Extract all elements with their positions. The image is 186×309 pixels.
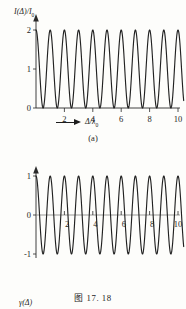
y-tick-label-b-1: 1 <box>27 171 31 181</box>
y-axis-arrow-icon-b <box>33 166 39 174</box>
x-axis-label-group-a: Δ/λ0 <box>56 117 98 128</box>
figure-caption: 图 17. 18 <box>0 291 186 304</box>
y-axis-label-a-text: I(Δ)/I <box>14 7 32 16</box>
intensity-curve <box>36 30 184 108</box>
figure-17-18: I(Δ)/I0 0 1 2 2 4 6 8 10 <box>0 0 186 309</box>
x-tick-label-a-10: 10 <box>174 114 183 124</box>
x-tick-label-a-6: 6 <box>119 114 123 124</box>
x-axis-label-a: Δ/λ0 <box>85 117 98 128</box>
panel-caption-a: (a) <box>0 133 186 143</box>
y-tick-label-b-neg1: -1 <box>24 249 31 259</box>
chart-panel-b: γ(Δ) 1 0 -1 2 4 6 8 10 <box>0 148 186 288</box>
chart-svg-b: 1 0 -1 2 4 6 8 10 <box>0 160 186 270</box>
y-tick-label-a-0: 0 <box>27 103 31 113</box>
chart-panel-a: I(Δ)/I0 0 1 2 2 4 6 8 10 <box>0 0 186 155</box>
y-tick-label-a-2: 2 <box>27 25 31 35</box>
x-axis-label-a-text: Δ/λ <box>85 117 95 126</box>
y-tick-label-b-0: 0 <box>27 210 31 220</box>
y-tick-label-a-1: 1 <box>27 64 31 74</box>
y-axis-label-a-sub: 0 <box>32 12 35 18</box>
x-tick-label-a-8: 8 <box>147 114 151 124</box>
x-axis-label-a-sub: 0 <box>95 122 98 128</box>
x-tick-label-b-10: 10 <box>174 219 183 229</box>
chart-svg-a: 0 1 2 2 4 6 8 10 <box>0 0 186 130</box>
y-axis-label-a: I(Δ)/I0 <box>14 7 34 18</box>
right-arrow-icon-a <box>56 119 82 126</box>
